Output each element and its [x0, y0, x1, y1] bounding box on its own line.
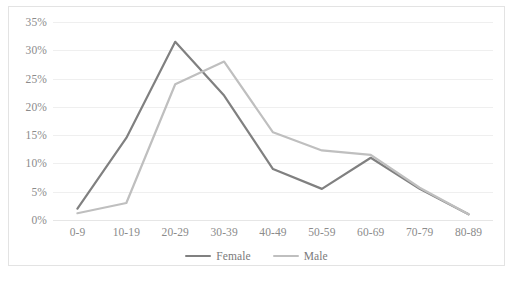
series-line-female	[77, 42, 468, 215]
x-tick-label-10-19: 10-19	[102, 226, 151, 246]
plot-area: 0%5%10%15%20%25%30%35%	[53, 22, 493, 220]
legend-swatch-male	[273, 255, 299, 258]
x-tick-label-70-79: 70-79	[395, 226, 444, 246]
x-axis-tick-labels: 0-910-1920-2930-3940-4950-5960-6970-7980…	[53, 226, 493, 246]
chart-figure: 0%5%10%15%20%25%30%35% 0-910-1920-2930-3…	[8, 6, 505, 266]
gridline-0%	[53, 220, 493, 221]
x-tick-label-60-69: 60-69	[346, 226, 395, 246]
x-tick-label-0-9: 0-9	[53, 226, 102, 246]
chart-legend: FemaleMale	[9, 250, 504, 262]
y-tick-label: 30%	[26, 44, 47, 56]
y-tick-label: 10%	[26, 157, 47, 169]
y-tick-label: 5%	[31, 186, 47, 198]
y-tick-label: 25%	[26, 73, 47, 85]
legend-item-female[interactable]: Female	[185, 250, 250, 262]
y-tick-label: 20%	[26, 101, 47, 113]
legend-label: Male	[304, 250, 328, 262]
x-tick-label-40-49: 40-49	[249, 226, 298, 246]
legend-label: Female	[216, 250, 250, 262]
y-tick-label: 35%	[26, 16, 47, 28]
x-tick-label-30-39: 30-39	[200, 226, 249, 246]
series-lines	[53, 22, 493, 220]
y-tick-label: 15%	[26, 129, 47, 141]
legend-item-male[interactable]: Male	[273, 250, 328, 262]
x-tick-label-20-29: 20-29	[151, 226, 200, 246]
series-line-male	[77, 62, 468, 215]
y-tick-label: 0%	[31, 214, 47, 226]
x-tick-label-50-59: 50-59	[297, 226, 346, 246]
legend-swatch-female	[185, 255, 211, 258]
x-tick-label-80-89: 80-89	[444, 226, 493, 246]
